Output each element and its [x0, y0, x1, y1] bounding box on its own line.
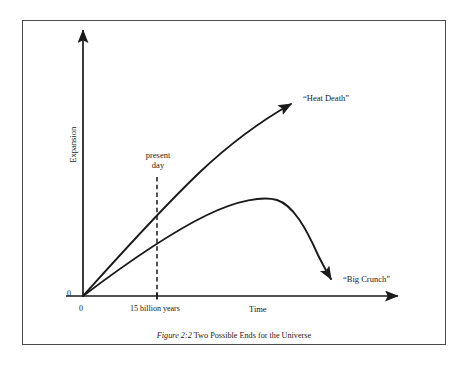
big-crunch-curve: [83, 199, 331, 296]
y-axis-origin-label: 0: [67, 290, 71, 299]
present-day-line-1: present: [146, 150, 171, 160]
y-axis-label: Expansion: [69, 115, 79, 175]
x-axis-origin-label: 0: [79, 305, 83, 314]
present-day-line-2: day: [130, 161, 186, 171]
figure-caption: Figure 2:2 Two Possible Ends for the Uni…: [22, 331, 446, 340]
plot-svg: [0, 0, 470, 368]
x-axis-label: Time: [249, 305, 267, 315]
present-day-annotation: present day: [130, 151, 186, 170]
figure-container: Expansion Time 15 billion years 0 0 pres…: [0, 0, 470, 368]
figure-caption-text: Two Possible Ends for the Universe: [192, 331, 311, 340]
heat-death-curve: [83, 104, 291, 296]
big-crunch-label: “Big Crunch”: [343, 275, 390, 285]
figure-number: Figure 2:2: [157, 331, 192, 340]
heat-death-label: “Heat Death”: [303, 94, 349, 104]
x-axis-tick-label: 15 billion years: [130, 305, 180, 314]
